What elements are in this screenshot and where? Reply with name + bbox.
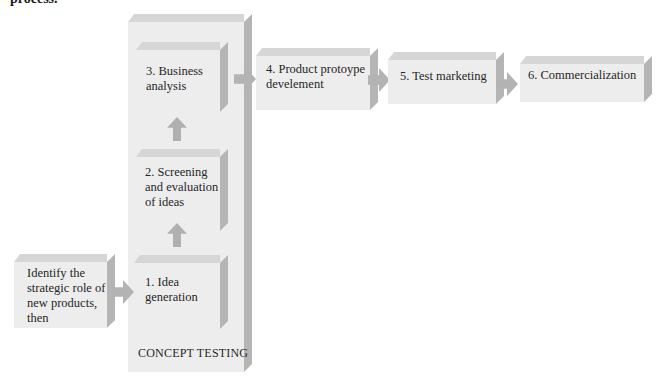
box-top-face — [134, 255, 220, 263]
step-3-label: 3. Business analysis — [146, 64, 203, 94]
box-side-face — [220, 149, 228, 231]
step-1-idea-generation-box: 1. Idea generation — [134, 263, 220, 329]
start-label: Identify the strategic role of new produ… — [27, 266, 105, 326]
figure-caption: process. — [10, 0, 58, 7]
step-4-label: 4. Product protoype develement — [266, 62, 365, 92]
step-5-label: 5. Test marketing — [400, 69, 487, 84]
box-top-face — [14, 254, 107, 262]
container-top-face — [128, 14, 244, 22]
identify-strategic-role-box: Identify the strategic role of new produ… — [14, 262, 107, 328]
box-top-face — [388, 52, 496, 60]
box-side-face — [220, 255, 228, 329]
box-top-face — [136, 42, 220, 50]
step-3-business-analysis-box: 3. Business analysis — [136, 50, 220, 112]
step-2-screening-box: 2. Screening and evaluation of ideas — [136, 157, 220, 231]
box-side-face — [496, 52, 504, 104]
box-top-face — [136, 149, 220, 157]
box-top-face — [256, 48, 370, 56]
step-2-label: 2. Screening and evaluation of ideas — [145, 165, 218, 210]
step-4-prototype-box: 4. Product protoype develement — [256, 56, 370, 110]
box-side-face — [220, 42, 228, 112]
step-6-commercialization-box: 6. Commercialization — [520, 64, 644, 102]
concept-testing-label: CONCEPT TESTING — [138, 346, 248, 361]
box-side-face — [644, 56, 652, 102]
step-1-label: 1. Idea generation — [145, 275, 198, 305]
box-top-face — [520, 56, 644, 64]
step-5-test-marketing-box: 5. Test marketing — [388, 60, 496, 104]
step-6-label: 6. Commercialization — [528, 68, 636, 83]
